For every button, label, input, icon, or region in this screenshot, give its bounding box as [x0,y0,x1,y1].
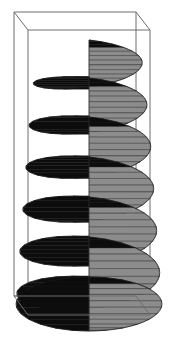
spiral-wedge [24,258,89,262]
spiral-wedge [17,301,89,308]
spiral-wedge [89,172,149,178]
spiral-wedge [89,107,147,113]
spiral-wedge [89,261,159,269]
spiral-wedge [89,70,139,75]
spiral-wedge [26,169,89,172]
spiral-wedge [29,121,89,124]
spiral-wedge [89,185,153,192]
spiral-wedge [89,113,143,118]
spiral-wedge [20,249,89,253]
spiral-wedge [21,289,89,295]
spiral-wedge [23,204,89,208]
spiral-wedge [23,208,89,212]
spiral-wedge [89,96,147,101]
spiral-wedge [26,166,89,169]
spiral-wedge [89,192,153,199]
spiral-wedge [34,82,89,84]
spiral-wedge [89,254,155,261]
spiral-wedge [26,163,89,166]
spiral-wedge [27,215,89,218]
spiral-wedge [21,314,89,320]
spiral-wedge [37,79,89,81]
spiral-surface-plot [0,0,176,362]
spiral-wedge [89,143,150,149]
spiral-wedge [17,294,89,300]
spiral-wedge [34,84,89,86]
spiral-wedge [20,254,89,258]
spiral-wedge [89,137,150,143]
spiral-wedge [23,211,89,215]
spiral-wedge [29,124,89,127]
figure-root: Conical helicoid spiral surface in wiref… [0,0,176,362]
spiral-wedge [33,129,89,131]
spiral-wedge [89,289,157,295]
spiral-wedge [30,172,89,175]
spiral-wedge [89,269,159,277]
spiral-wedge [89,178,153,185]
spiral-wedge [89,227,156,234]
spiral-wedge [30,127,89,130]
spiral-wedge [17,307,89,313]
spiral-wedge [89,102,147,108]
spiral-wedge [89,131,147,137]
spiral-wedge [24,242,89,246]
spiral-wedge [89,294,161,300]
spiral-wedge [27,201,89,204]
spiral-wedge [89,91,143,96]
spiral-wedge [89,56,142,61]
spiral-wedge [89,307,161,313]
spiral-wedge [89,314,157,320]
spiral-wedge [89,150,150,156]
spiral-wedge [30,160,89,163]
spiral-wedge [20,245,89,249]
spiral-wedge [89,51,139,55]
spiral-wedge [34,81,89,83]
spiral-wedge [33,119,89,121]
spiral-wedge [89,220,156,227]
spiral-wedge [89,213,152,220]
spiral-wedge [89,301,161,308]
spiral-wedge [89,60,142,65]
spiral-wedge [89,65,142,70]
